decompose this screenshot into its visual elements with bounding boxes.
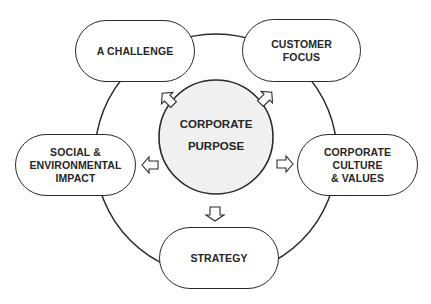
node-label: SOCIAL & ENVIRONMENTAL IMPACT [29, 146, 121, 185]
node-corporate-culture-values: CORPORATE CULTURE & VALUES [297, 134, 418, 196]
node-a-challenge: A CHALLENGE [75, 20, 195, 82]
arrow-to-social-impact-icon [142, 157, 158, 173]
node-label: STRATEGY [190, 252, 247, 265]
node-strategy: STRATEGY [159, 227, 279, 289]
center-label-corporate-purpose: CORPORATE PURPOSE [160, 113, 272, 157]
arrow-to-corporate-culture-icon [277, 156, 293, 172]
node-social-environmental-impact: SOCIAL & ENVIRONMENTAL IMPACT [15, 134, 136, 196]
node-label: CORPORATE CULTURE & VALUES [324, 146, 391, 185]
arrow-to-strategy-icon [206, 207, 224, 221]
node-customer-focus: CUSTOMER FOCUS [242, 19, 361, 82]
node-label: A CHALLENGE [97, 45, 174, 58]
node-label: CUSTOMER FOCUS [271, 38, 332, 64]
